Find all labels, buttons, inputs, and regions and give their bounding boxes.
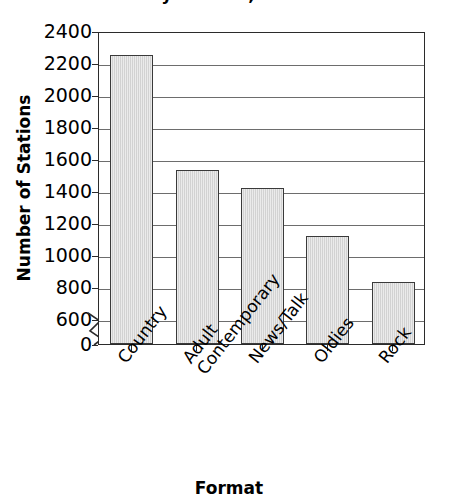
y-axis-tick-label: 2400 — [0, 22, 92, 41]
x-axis-title: Format — [0, 478, 458, 498]
y-axis-tick-label: 1200 — [0, 214, 92, 233]
chart-container: by Format, 2000 Number of Stations 06008… — [0, 0, 458, 504]
y-axis-tick-label: 1400 — [0, 182, 92, 201]
y-axis-tick-label: 2000 — [0, 86, 92, 105]
y-axis-tick-label: 1600 — [0, 150, 92, 169]
y-axis-tick-label: 600 — [0, 310, 92, 329]
bar[interactable] — [110, 55, 153, 344]
y-axis-tick-label: 0 — [0, 335, 92, 354]
y-axis-tick-label: 1000 — [0, 246, 92, 265]
y-axis-tick-label: 1800 — [0, 118, 92, 137]
y-axis-tick-label: 800 — [0, 278, 92, 297]
y-axis-tick-label: 2200 — [0, 54, 92, 73]
